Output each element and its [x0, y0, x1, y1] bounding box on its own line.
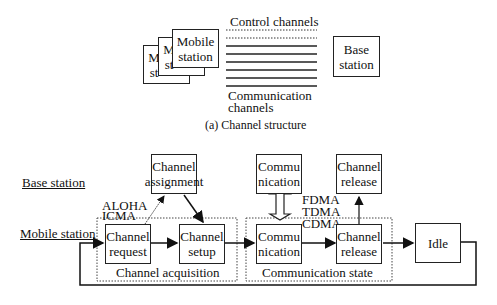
channel-setup-box: Channelsetup	[179, 224, 225, 264]
box-line: request	[109, 244, 147, 259]
idle-box: Idle	[415, 223, 461, 263]
caption-a: (a) Channel structure	[205, 119, 306, 132]
box-line: setup	[188, 244, 215, 259]
channel-assignment-box: Channelassignment	[151, 154, 197, 194]
channel-request-box: Channelrequest	[105, 224, 151, 264]
group-label-communication-state: Communication state	[262, 266, 373, 279]
mobile-station-label: Mobile station	[173, 34, 218, 64]
communication-top-box: Communication	[256, 154, 302, 194]
box-line: Commu	[258, 159, 300, 174]
box-line: Idle	[428, 236, 448, 251]
control-channels-label: Control channels	[230, 15, 318, 28]
base-station-label: Base station	[334, 42, 379, 72]
group-label-channel-acquisition: Channel acquisition	[116, 266, 220, 279]
communication-box: Communication	[256, 224, 302, 264]
box-line: Channel	[337, 229, 380, 244]
box-line: release	[341, 244, 377, 259]
box-line: nication	[258, 174, 300, 189]
box-line: nication	[258, 244, 300, 259]
box-line: assignment	[145, 174, 204, 189]
row-label-mobile-station: Mobile station	[20, 227, 95, 240]
icma-label: ICMA	[102, 209, 136, 222]
channel-release-box: Channelrelease	[336, 224, 382, 264]
mobile-station-box: Mobile station	[172, 29, 219, 68]
box-line: Channel	[152, 159, 195, 174]
row-label-base-station: Base station	[22, 176, 85, 189]
communication-channels-label-2: channels	[228, 101, 273, 114]
box-line: Channel	[180, 229, 223, 244]
box-line: Channel	[337, 159, 380, 174]
channel-release-top-box: Channelrelease	[336, 154, 382, 194]
base-station-box: Base station	[333, 36, 380, 77]
box-line: Channel	[106, 229, 149, 244]
box-line: Commu	[258, 229, 300, 244]
box-line: release	[341, 174, 377, 189]
